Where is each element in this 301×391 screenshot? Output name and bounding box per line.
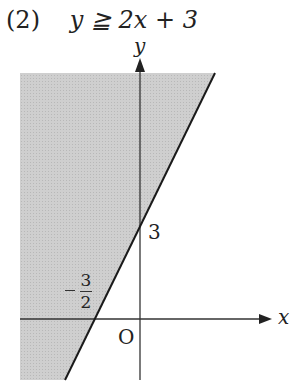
origin-label: O bbox=[118, 327, 134, 347]
x-axis-arrow-icon bbox=[259, 314, 272, 324]
x-axis-label: x bbox=[278, 307, 289, 327]
y-axis-label: y bbox=[134, 36, 145, 56]
fraction-denominator: 2 bbox=[81, 292, 92, 312]
y-intercept-label: 3 bbox=[148, 222, 161, 242]
graph bbox=[0, 0, 301, 391]
minus-sign bbox=[65, 290, 75, 291]
y-axis-arrow-icon bbox=[135, 58, 145, 72]
fraction-numerator: 3 bbox=[81, 270, 92, 290]
x-intercept-fraction: 3 2 bbox=[80, 272, 92, 311]
